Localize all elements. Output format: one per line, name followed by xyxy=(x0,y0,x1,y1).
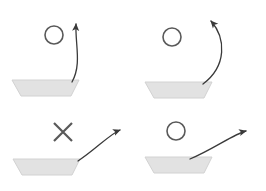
circle-marker xyxy=(45,26,63,44)
circle-marker xyxy=(163,28,181,46)
bowl-trapezoid xyxy=(145,82,212,98)
trajectory-arrow xyxy=(72,24,77,82)
bowl-trapezoid xyxy=(145,157,212,173)
panel-top-left xyxy=(12,24,79,96)
figure-container xyxy=(0,0,266,191)
circle-marker xyxy=(167,122,185,140)
panel-top-right xyxy=(145,21,222,98)
trajectory-arrow xyxy=(78,130,120,161)
trajectory-arrow xyxy=(203,21,222,84)
four-panel-trajectory-figure xyxy=(0,0,266,191)
panel-bottom-left xyxy=(13,123,120,175)
trajectory-arrow xyxy=(190,131,246,159)
panel-bottom-right xyxy=(145,122,246,173)
bowl-trapezoid xyxy=(13,159,80,175)
bowl-trapezoid xyxy=(12,80,79,96)
cross-marker xyxy=(54,123,72,141)
